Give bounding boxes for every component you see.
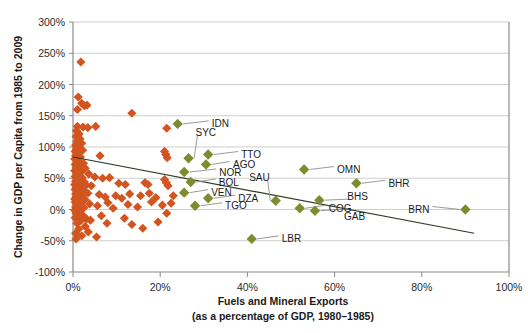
x-tick-label: 0%: [65, 281, 80, 293]
data-point-lbr: [247, 234, 257, 244]
data-point-other: [162, 209, 171, 218]
data-point-other: [158, 201, 167, 210]
data-point-other: [97, 211, 106, 220]
label-leader-line: [183, 121, 209, 124]
xtick-labels-group: 0%20%40%60%80%100%: [65, 281, 522, 293]
y-tick-label: 100%: [38, 141, 65, 153]
x-tick-label: 20%: [150, 281, 171, 293]
data-point-other: [127, 109, 136, 118]
data-point-bhs: [314, 195, 324, 205]
data-point-other: [92, 232, 101, 241]
point-label-bol: BOL: [219, 177, 239, 188]
data-point-other: [133, 202, 142, 211]
data-point-other: [123, 200, 132, 209]
data-point-tto: [203, 149, 213, 159]
label-leader-line: [190, 190, 209, 193]
point-labels-group: IDNSYCTTOAGONORBOLVENDZATGOLBROMNBHRSAUB…: [196, 118, 430, 244]
label-leader-line: [257, 236, 279, 239]
data-point-other: [105, 173, 114, 182]
x-axis-title: Fuels and Mineral Exports: [218, 295, 349, 307]
data-point-cog: [295, 203, 305, 213]
data-point-other: [91, 122, 100, 131]
x-tick-label: 60%: [324, 281, 345, 293]
y-axis-title: Change in GDP per Capita from 1985 to 20…: [12, 36, 24, 258]
data-point-brn: [460, 204, 470, 214]
label-leader-line: [325, 199, 350, 200]
label-leader-line: [432, 207, 460, 210]
label-leader-line: [362, 180, 386, 183]
label-leader-line: [310, 167, 335, 170]
x-tick-label: 40%: [237, 281, 258, 293]
data-point-other: [93, 201, 102, 210]
y-tick-label: 200%: [38, 79, 65, 91]
data-point-ven: [179, 187, 189, 197]
label-leader-line: [211, 162, 230, 165]
data-point-other: [136, 191, 145, 200]
data-point-sau: [271, 196, 281, 206]
data-point-other: [121, 180, 130, 189]
data-point-other: [169, 191, 178, 200]
x-axis-subtitle: (as a percentage of GDP, 1980–1985): [192, 310, 374, 322]
point-label-gab: GAB: [344, 211, 365, 222]
chart-root: -100%-50%0%50%100%150%200%250%300% 0%20%…: [0, 0, 528, 333]
data-point-other: [153, 217, 162, 226]
ytick-labels-group: -100%-50%0%50%100%150%200%250%300%: [35, 16, 65, 278]
data-point-other: [120, 214, 129, 223]
data-point-bhr: [351, 178, 361, 188]
other-country-points-group: [70, 57, 178, 243]
y-tick-label: -100%: [35, 266, 65, 278]
point-label-brn: BRN: [408, 204, 429, 215]
label-leader-line: [201, 203, 223, 206]
point-label-omn: OMN: [337, 164, 360, 175]
point-label-sau: SAU: [249, 172, 270, 183]
data-point-other: [125, 189, 134, 198]
data-point-syc: [183, 153, 193, 163]
x-tick-label: 100%: [496, 281, 523, 293]
y-tick-label: 150%: [38, 110, 65, 122]
point-label-lbr: LBR: [282, 233, 301, 244]
data-point-other: [167, 199, 176, 208]
data-point-idn: [172, 119, 182, 129]
axis-titles-group: Fuels and Mineral Exports(as a percentag…: [12, 36, 374, 322]
x-tick-label: 80%: [411, 281, 432, 293]
y-tick-label: 50%: [44, 172, 65, 184]
point-label-ven: VEN: [211, 187, 232, 198]
data-point-other: [162, 124, 171, 133]
data-point-other: [95, 151, 104, 160]
data-point-nor: [179, 167, 189, 177]
data-point-other: [102, 219, 111, 228]
point-label-bhr: BHR: [388, 178, 409, 189]
y-tick-label: 250%: [38, 47, 65, 59]
point-label-bhs: BHS: [347, 191, 368, 202]
y-tick-label: 0%: [50, 204, 65, 216]
y-tick-label: 300%: [38, 16, 65, 28]
scatter-chart: -100%-50%0%50%100%150%200%250%300% 0%20%…: [0, 0, 528, 333]
label-leader-line: [268, 181, 271, 201]
data-point-other: [127, 220, 136, 229]
point-label-syc: SYC: [196, 127, 217, 138]
data-point-ago: [201, 159, 211, 169]
label-leader-line: [214, 152, 239, 155]
label-leader-line: [190, 169, 217, 172]
y-tick-label: -50%: [40, 235, 65, 247]
point-label-tgo: TGO: [225, 200, 247, 211]
data-point-omn: [299, 164, 309, 174]
data-point-other: [138, 224, 147, 233]
labeled-country-points-group: [172, 119, 470, 244]
data-point-other: [76, 57, 85, 66]
